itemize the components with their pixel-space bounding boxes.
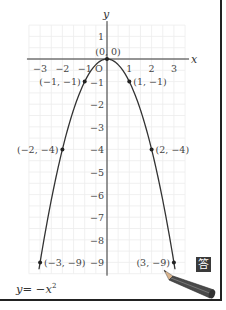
y-axis-label: y bbox=[102, 8, 110, 21]
pencil-body bbox=[169, 276, 214, 298]
answer-badge: 答 bbox=[196, 257, 211, 272]
x-tick-label: −3 bbox=[33, 63, 47, 74]
x-tick-label: −2 bbox=[55, 63, 69, 74]
equation-label: y= −x2 bbox=[15, 282, 56, 296]
y-tick-label: −6 bbox=[90, 190, 104, 201]
point-label: (−2, −4) bbox=[17, 144, 58, 155]
y-tick-label: −2 bbox=[90, 99, 104, 110]
data-point bbox=[172, 260, 176, 264]
y-tick-label: −8 bbox=[90, 235, 104, 246]
pencil-highlight bbox=[171, 278, 212, 294]
data-point bbox=[83, 80, 87, 84]
data-point bbox=[38, 260, 42, 264]
y-tick-label: −3 bbox=[90, 122, 104, 133]
y-tick-label: −1 bbox=[90, 77, 104, 88]
x-axis-label: x bbox=[191, 53, 198, 66]
point-label: (1, −1) bbox=[133, 76, 167, 87]
data-point bbox=[127, 80, 131, 84]
point-label: (−1, −1) bbox=[39, 76, 80, 87]
x-tick-label: 3 bbox=[171, 63, 177, 74]
figure-frame: xyO −3−2−11231−1−2−3−4−5−6−7−8−9 (0, 0)(… bbox=[0, 0, 226, 310]
y-tick-label: −4 bbox=[90, 144, 104, 155]
data-point bbox=[150, 147, 154, 151]
y-tick-label: −9 bbox=[90, 257, 104, 268]
parabola-chart: xyO −3−2−11231−1−2−3−4−5−6−7−8−9 (0, 0)(… bbox=[0, 0, 226, 310]
point-label: (3, −9) bbox=[136, 257, 170, 268]
point-label: (2, −4) bbox=[156, 144, 190, 155]
y-tick-label: −5 bbox=[90, 167, 104, 178]
point-label: (0, 0) bbox=[95, 46, 121, 57]
x-tick-label: 2 bbox=[149, 63, 155, 74]
x-tick-label: 1 bbox=[126, 63, 132, 74]
data-point bbox=[60, 147, 64, 151]
equation-operator: = − bbox=[23, 282, 46, 296]
data-point bbox=[105, 57, 109, 61]
point-label: (−3, −9) bbox=[44, 257, 85, 268]
y-tick-label: −7 bbox=[90, 212, 104, 223]
y-tick-label: 1 bbox=[98, 31, 104, 42]
pencil-icon bbox=[164, 270, 216, 299]
equation-exponent: 2 bbox=[52, 282, 56, 290]
